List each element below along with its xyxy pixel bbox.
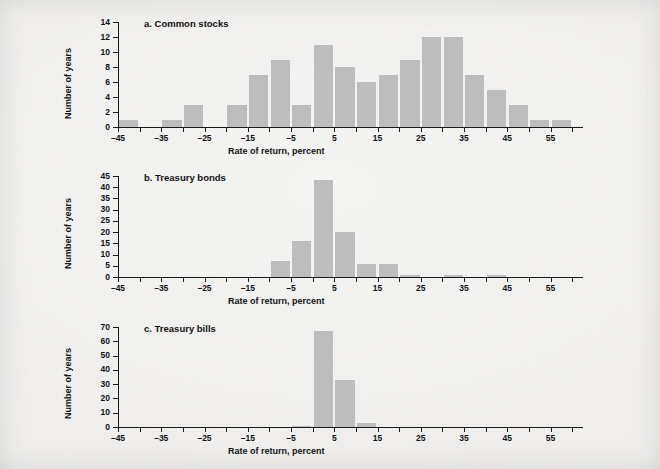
x-axis-tick — [572, 128, 573, 132]
histogram-bar — [509, 105, 528, 128]
y-axis-tick — [113, 277, 118, 278]
histogram-bar — [314, 331, 333, 427]
y-axis-tick — [113, 221, 118, 222]
y-axis-tick-label: 10 — [76, 250, 110, 259]
x-axis-tick-label: 5 — [314, 434, 354, 443]
x-axis-tick — [507, 128, 508, 132]
x-axis-tick-label: 15 — [358, 134, 398, 143]
histogram-bar — [379, 264, 398, 277]
x-axis-tick — [269, 128, 270, 132]
x-axis-tick-label: –15 — [228, 284, 268, 293]
x-axis-tick-label: 25 — [401, 284, 441, 293]
x-axis-tick — [421, 128, 422, 132]
y-axis-tick-label: 12 — [76, 33, 110, 42]
x-axis-tick — [551, 128, 552, 132]
x-axis-tick-label: 35 — [444, 434, 484, 443]
x-axis-tick-label: 15 — [358, 284, 398, 293]
y-axis-tick — [113, 255, 118, 256]
y-axis-tick — [113, 356, 118, 357]
x-axis-tick — [378, 278, 379, 282]
x-axis-tick — [291, 278, 292, 282]
y-axis-tick — [113, 82, 118, 83]
y-axis-tick — [113, 112, 118, 113]
y-axis-tick-label: 0 — [76, 123, 110, 132]
x-axis-tick — [464, 428, 465, 432]
y-axis-tick-label: 20 — [76, 228, 110, 237]
y-axis-tick-label: 35 — [76, 194, 110, 203]
y-axis-tick — [113, 176, 118, 177]
x-axis-line — [118, 427, 583, 428]
x-axis-tick-label: 25 — [401, 434, 441, 443]
histogram-bar — [292, 105, 311, 128]
x-axis-tick — [205, 428, 206, 432]
x-axis-tick — [269, 278, 270, 282]
x-axis-tick — [183, 128, 184, 132]
x-axis-tick — [356, 428, 357, 432]
x-axis-tick — [486, 128, 487, 132]
x-axis-tick — [248, 428, 249, 432]
histogram-bar — [292, 241, 311, 277]
histogram-bar — [552, 120, 571, 128]
x-axis-tick-label: –45 — [98, 284, 138, 293]
x-axis-tick-label: 15 — [358, 434, 398, 443]
y-axis-tick — [113, 427, 118, 428]
y-axis-tick — [113, 187, 118, 188]
y-axis-tick — [113, 67, 118, 68]
x-axis-tick — [291, 128, 292, 132]
x-axis-tick — [464, 128, 465, 132]
histogram-bar — [487, 90, 506, 128]
x-axis-tick-label: –25 — [185, 434, 225, 443]
y-axis-tick — [113, 341, 118, 342]
y-axis-tick — [113, 370, 118, 371]
x-axis-tick — [140, 278, 141, 282]
x-axis-tick — [313, 128, 314, 132]
x-axis-tick-label: 45 — [487, 134, 527, 143]
x-axis-tick — [507, 428, 508, 432]
y-axis-line — [118, 176, 119, 278]
panel-title: c. Treasury bills — [144, 323, 216, 334]
y-axis-tick — [113, 22, 118, 23]
x-axis-tick — [140, 128, 141, 132]
x-axis-tick-label: 25 — [401, 134, 441, 143]
x-axis-tick — [442, 428, 443, 432]
y-axis-tick-label: 30 — [76, 380, 110, 389]
x-axis-tick-label: 35 — [444, 134, 484, 143]
histogram-bar — [314, 180, 333, 277]
y-axis-tick-label: 0 — [76, 273, 110, 282]
x-axis-tick — [118, 128, 119, 132]
histogram-bar — [465, 75, 484, 128]
histogram-bar — [335, 380, 354, 427]
x-axis-tick — [118, 428, 119, 432]
histogram-bar — [422, 37, 441, 127]
y-axis-tick — [113, 52, 118, 53]
x-axis-tick-label: 35 — [444, 284, 484, 293]
x-axis-tick — [464, 278, 465, 282]
histogram-bar — [314, 45, 333, 128]
y-axis-tick-label: 30 — [76, 205, 110, 214]
x-axis-tick — [313, 428, 314, 432]
y-axis-tick — [113, 413, 118, 414]
x-axis-title: Rate of return, percent — [228, 446, 325, 456]
x-axis-tick-label: –45 — [98, 434, 138, 443]
x-axis-tick-label: –35 — [141, 434, 181, 443]
x-axis-tick — [334, 278, 335, 282]
y-axis-tick-label: 6 — [76, 78, 110, 87]
x-axis-tick — [140, 428, 141, 432]
y-axis-tick — [113, 232, 118, 233]
x-axis-tick — [529, 128, 530, 132]
histogram-bar — [271, 261, 290, 277]
y-axis-tick-label: 0 — [76, 423, 110, 432]
panel-title: a. Common stocks — [144, 18, 228, 29]
histogram-bar — [530, 120, 549, 128]
x-axis-tick-label: –35 — [141, 134, 181, 143]
y-axis-tick — [113, 327, 118, 328]
x-axis-title: Rate of return, percent — [228, 146, 325, 156]
x-axis-tick-label: –25 — [185, 284, 225, 293]
x-axis-tick-label: 45 — [487, 434, 527, 443]
x-axis-tick — [399, 278, 400, 282]
x-axis-tick — [161, 428, 162, 432]
x-axis-line — [118, 277, 583, 278]
x-axis-tick — [118, 278, 119, 282]
x-axis-tick — [334, 128, 335, 132]
y-axis-tick — [113, 266, 118, 267]
